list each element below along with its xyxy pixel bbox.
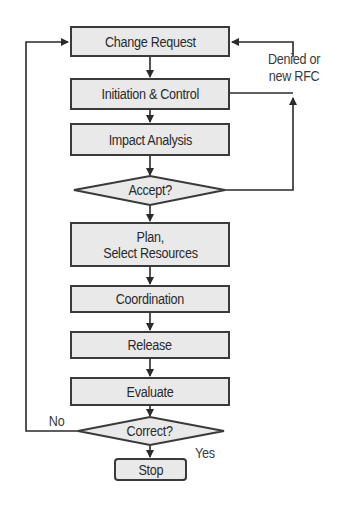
release-box: Release	[70, 331, 230, 359]
impact-analysis-label: Impact Analysis	[108, 132, 191, 148]
plan-label-line1: Plan,	[136, 229, 163, 245]
denied-note-line2: new RFC	[269, 68, 320, 85]
stop-box: Stop	[114, 458, 187, 481]
coordination-label: Coordination	[116, 291, 184, 307]
stop-label: Stop	[138, 462, 163, 478]
impact-analysis-box: Impact Analysis	[70, 123, 230, 156]
change-request-box: Change Request	[70, 26, 230, 57]
accept-label-wrap: Accept?	[100, 182, 200, 198]
correct-label-wrap: Correct?	[100, 423, 200, 439]
no-label-wrap: No	[42, 413, 72, 430]
coordination-box: Coordination	[70, 285, 230, 313]
no-label: No	[49, 413, 65, 430]
evaluate-label: Evaluate	[127, 384, 174, 400]
release-label: Release	[128, 337, 172, 353]
denied-note-line1: Denied or	[268, 51, 320, 68]
change-request-label: Change Request	[105, 34, 196, 50]
plan-label-line2: Select Resources	[103, 245, 197, 261]
plan-select-resources-box: Plan, Select Resources	[70, 222, 230, 267]
correct-label: Correct?	[127, 423, 173, 439]
evaluate-box: Evaluate	[70, 377, 230, 406]
denied-note: Denied or new RFC	[254, 51, 334, 85]
yes-label-wrap: Yes	[188, 445, 222, 462]
initiation-control-label: Initiation & Control	[101, 86, 199, 102]
yes-label: Yes	[195, 445, 215, 462]
arrow-accept-denied	[224, 98, 293, 190]
initiation-control-box: Initiation & Control	[70, 78, 230, 110]
accept-label: Accept?	[128, 182, 172, 198]
